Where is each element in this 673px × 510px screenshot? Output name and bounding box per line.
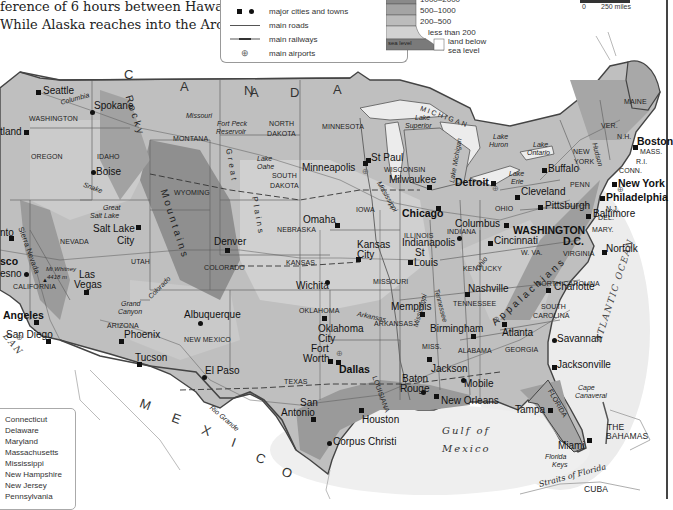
state-nebraska: NEBRASKA	[277, 226, 316, 233]
city-label-omaha: Omaha	[303, 215, 336, 225]
city-marker-birmingham	[471, 334, 476, 339]
state-california: CALIFORNIA	[13, 283, 56, 290]
city-label-norfolk: Norfolk	[606, 244, 638, 254]
airport-icon: ⊕	[221, 48, 269, 58]
page-edge	[666, 0, 668, 499]
canada-letter-a: A	[180, 80, 189, 93]
city-label-el-paso: El Paso	[205, 366, 239, 376]
key-item-pennsylvania: Pennsylvania	[0, 491, 75, 502]
airport-icon-la: ⊕	[16, 334, 23, 342]
state-north-dakota-2: DAKOTA	[267, 130, 296, 137]
lake-superior-label-2: Superior	[405, 122, 431, 129]
state-nevada: NEVADA	[60, 238, 89, 245]
state-kansas: KANSAS	[286, 259, 315, 266]
state-oregon: OREGON	[31, 153, 63, 160]
state-south-carolina-2: CAROLINA	[533, 312, 570, 319]
state-utah: UTAH	[131, 258, 150, 265]
state-iowa: IOWA	[356, 206, 375, 213]
fort-peck-label-1: Fort Peck	[217, 120, 247, 127]
lake-superior-label-1: Lake	[415, 114, 430, 121]
city-label-kansas-city-2: City	[357, 250, 374, 260]
city-label-buffalo: Buffalo	[548, 164, 579, 174]
key-item-new-hampshire: New Hampshire	[0, 469, 75, 480]
state-north-dakota-1: NORTH	[269, 120, 294, 127]
city-label-cincinnati: Cincinnati	[494, 236, 538, 246]
state-idaho: IDAHO	[97, 153, 120, 160]
lake-oahe-label-2: Oahe	[257, 163, 274, 170]
lake-ontario-label-2: Ontario	[527, 149, 550, 156]
airport-icon-detroit: ⊕	[492, 185, 499, 193]
city-marker-charlotte	[546, 288, 551, 293]
key-item-delaware: Delaware	[0, 425, 75, 436]
state-new-mexico: NEW MEXICO	[184, 336, 231, 343]
city-label-denver: Denver	[214, 237, 246, 247]
airport-icon-atlanta: ⊕	[493, 316, 500, 324]
cape-canaveral-label-2: Canaveral	[575, 392, 607, 399]
city-marker-fresno	[24, 272, 29, 277]
state-ri: R.I.	[636, 158, 647, 165]
state-georgia: GEORGIA	[505, 346, 538, 353]
state-missouri: MISSOURI	[373, 278, 408, 285]
city-label-st-paul: St Paul	[371, 153, 403, 163]
below-sea-label-1: land below	[448, 37, 486, 46]
cuba-label: CUBA	[584, 485, 608, 494]
legend-item-cities: major cities and towns	[221, 4, 348, 18]
city-label-mobile: Mobile	[464, 379, 493, 389]
city-label-pittsburgh: Pittsburgh	[545, 201, 590, 211]
florida-keys-label-1: Florida	[545, 453, 566, 460]
legend-item-roads: main roads	[221, 18, 309, 32]
airport-icon-minneapolis: ⊕	[362, 168, 369, 176]
city-label-indianapolis: Indianapolis	[402, 238, 455, 248]
city-label-minneapolis: Minneapolis	[302, 163, 355, 173]
city-marker-columbus	[504, 223, 509, 228]
city-marker-buffalo	[542, 168, 547, 173]
city-label-milwaukee: Milwaukee	[389, 175, 436, 185]
city-marker-las-vegas	[84, 290, 89, 295]
canada-letter-a3: A	[333, 83, 342, 96]
city-label-boise: Boise	[96, 167, 121, 177]
state-nh: N.H.	[617, 133, 631, 140]
city-square-circle-icon	[221, 9, 269, 14]
state-mass: MASS.	[640, 148, 662, 155]
city-label-jacksonville: Jacksonville	[557, 360, 611, 370]
city-label-salt-lake-2: City	[117, 236, 134, 246]
city-marker-baltimore	[586, 214, 591, 219]
city-label-charlotte: Charlotte	[554, 282, 595, 292]
mt-whitney-label-1: Mt Whitney	[46, 266, 76, 272]
bahamas-label-2: BAHAMAS	[606, 432, 648, 441]
city-marker-corpus-christi	[327, 441, 332, 446]
city-label-st-louis-2: Louis	[414, 258, 438, 268]
city-label-seattle: Seattle	[43, 86, 74, 96]
city-marker-salt-lake	[136, 225, 141, 230]
state-colorado: COLORADO	[204, 264, 245, 271]
city-marker-cleveland	[515, 195, 520, 200]
state-indiana: INDIANA	[447, 228, 476, 235]
state-tennessee: TENNESSEE	[453, 300, 496, 307]
map-legend: major cities and towns main roads main r…	[220, 0, 408, 63]
city-marker-cincinnati	[488, 241, 493, 246]
city-label-new-orleans: New Orleans	[441, 396, 499, 406]
city-label-nashville: Nashville	[468, 284, 509, 294]
lake-huron-label-2: Huron	[489, 141, 508, 148]
florida-keys-label-2: Keys	[552, 461, 568, 468]
city-marker-miami	[587, 438, 592, 443]
below-sea-label-2: sea level	[448, 46, 480, 55]
city-label-spokane: Spokane	[94, 101, 133, 111]
city-label-baltimore: Baltimore	[593, 209, 635, 219]
fort-peck-label-2: Reservoir	[216, 128, 246, 135]
city-marker-pittsburgh	[538, 205, 543, 210]
state-virginia: VIRGINIA	[563, 250, 595, 257]
key-item-massachusetts: Massachusetts	[0, 447, 75, 458]
gulf-of-mexico-line2: Mexico	[442, 444, 491, 454]
legend-item-airports: ⊕ main airports	[221, 46, 315, 60]
city-label-baton-rouge-2: Rouge	[400, 384, 429, 394]
city-label-washington-1: WASHINGTON	[513, 225, 585, 236]
city-label-miami: Miami	[558, 441, 585, 451]
city-marker-denver	[225, 248, 230, 253]
lake-ontario-label-1: Lake	[533, 141, 548, 148]
city-label-memphis: Memphis	[391, 302, 432, 312]
mt-whitney-label-2: 4418 m	[47, 274, 67, 280]
state-maine: MAINE	[624, 98, 647, 105]
missouri-river-label: Missouri	[186, 112, 212, 119]
state-new-york-1: NEW	[573, 148, 590, 155]
